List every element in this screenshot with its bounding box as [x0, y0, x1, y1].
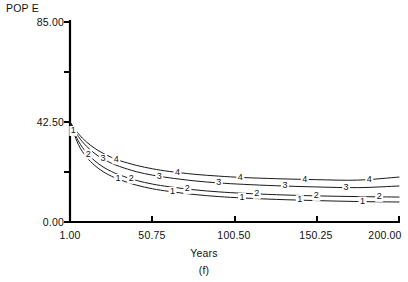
curve-label-1: 1	[297, 194, 302, 204]
curve-label-1: 1	[239, 192, 244, 202]
curve-label-1: 1	[360, 196, 365, 206]
curve-number-labels-group: 1111112222223333344444	[69, 125, 383, 206]
curve-label-2: 2	[314, 190, 319, 200]
curve-label-2: 2	[185, 183, 190, 193]
curve-4	[70, 122, 399, 180]
figure-panel: POP E 85.00 42.50 0.00 1.00 50.75 100.50…	[0, 0, 408, 282]
curve-label-1: 1	[71, 125, 76, 135]
curve-label-1: 1	[170, 186, 175, 196]
curve-label-4: 4	[302, 174, 307, 184]
curve-label-4: 4	[367, 174, 372, 184]
curve-label-3: 3	[157, 171, 162, 181]
curve-label-4: 4	[114, 154, 119, 164]
curve-label-3: 3	[344, 182, 349, 192]
curve-label-4: 4	[175, 167, 180, 177]
curve-label-4: 4	[238, 172, 243, 182]
curve-label-2: 2	[86, 149, 91, 159]
curve-label-1: 1	[115, 173, 120, 183]
curve-label-2: 2	[254, 188, 259, 198]
curve-label-3: 3	[101, 153, 106, 163]
curve-label-2: 2	[377, 191, 382, 201]
curve-label-2: 2	[129, 173, 134, 183]
chart-canvas: 1111112222223333344444	[0, 0, 408, 282]
curve-label-3: 3	[216, 177, 221, 187]
curve-label-3: 3	[282, 180, 287, 190]
